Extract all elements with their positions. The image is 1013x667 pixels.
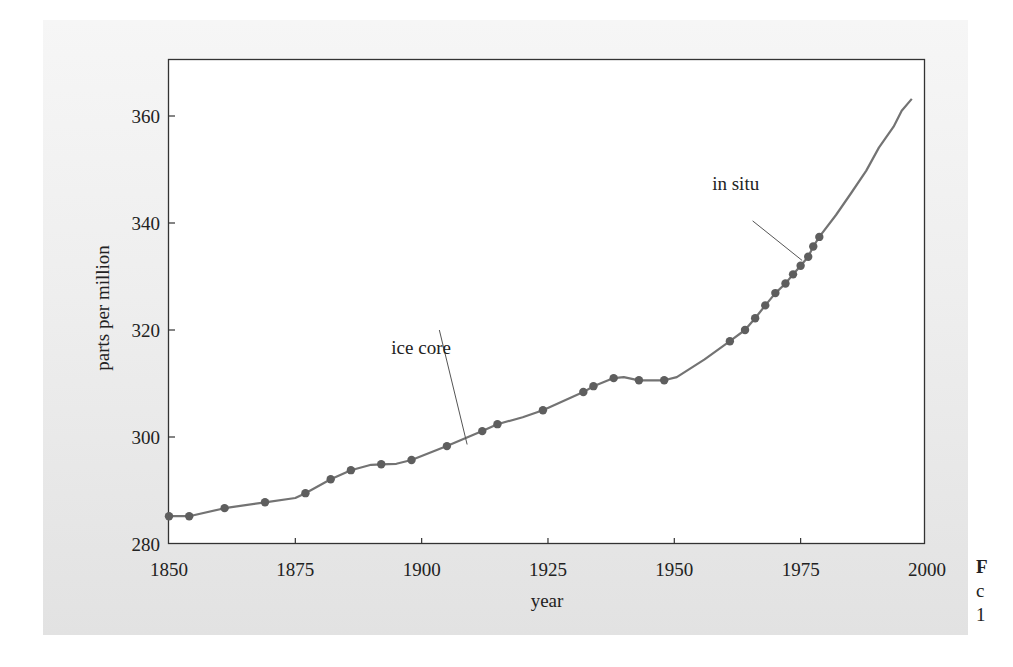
data-point-marker — [761, 301, 769, 309]
x-tick-label: 1875 — [276, 559, 314, 580]
data-point-marker — [789, 270, 797, 278]
data-point-marker — [326, 475, 334, 483]
x-axis-ticks: 1850187519001925195019752000 — [150, 538, 946, 580]
caption-fragment-2: c — [976, 580, 984, 602]
data-point-marker — [804, 253, 812, 261]
data-point-marker — [443, 442, 451, 450]
data-point-marker — [165, 512, 173, 520]
data-point-marker — [493, 420, 501, 428]
x-tick-label: 1925 — [529, 559, 567, 580]
data-point-marker — [589, 382, 597, 390]
data-point-marker — [261, 498, 269, 506]
x-tick-label: 2000 — [908, 559, 946, 580]
data-point-marker — [478, 427, 486, 435]
y-tick-label: 360 — [132, 106, 161, 127]
data-point-marker — [660, 376, 668, 384]
data-point-marker — [809, 242, 817, 250]
data-point-marker — [609, 374, 617, 382]
y-tick-label: 320 — [132, 320, 161, 341]
data-point-marker — [781, 279, 789, 287]
y-tick-label: 300 — [132, 427, 161, 448]
data-point-marker — [220, 504, 228, 512]
data-point-marker — [815, 233, 823, 241]
annotation-label: in situ — [712, 173, 759, 194]
caption-fragment-1: F — [976, 556, 988, 578]
data-point-marker — [796, 262, 804, 270]
y-axis-title: parts per million — [92, 245, 113, 371]
co2-line-chart: 1850187519001925195019752000 28030032034… — [0, 0, 1013, 667]
annotation-label: ice core — [391, 337, 451, 358]
data-point-marker — [347, 466, 355, 474]
data-point-marker — [185, 512, 193, 520]
plot-frame — [169, 60, 925, 544]
x-tick-label: 1850 — [150, 559, 188, 580]
data-point-marker — [377, 460, 385, 468]
data-point-marker — [301, 489, 309, 497]
x-tick-label: 1975 — [782, 559, 820, 580]
data-point-marker — [635, 376, 643, 384]
data-point-marker — [771, 289, 779, 297]
data-point-marker — [407, 456, 415, 464]
x-axis-title: year — [531, 590, 564, 611]
data-point-marker — [726, 337, 734, 345]
data-point-marker — [741, 326, 749, 334]
x-tick-label: 1900 — [403, 559, 441, 580]
data-point-marker — [751, 314, 759, 322]
caption-fragment-3: 1 — [976, 604, 986, 626]
y-tick-label: 340 — [132, 213, 161, 234]
data-point-marker — [539, 406, 547, 414]
x-tick-label: 1950 — [655, 559, 693, 580]
data-point-marker — [579, 388, 587, 396]
y-tick-label: 280 — [132, 534, 161, 555]
